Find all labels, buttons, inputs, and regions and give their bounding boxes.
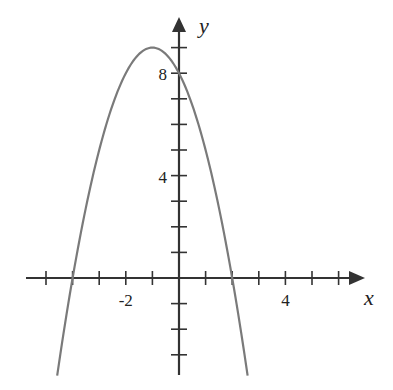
tick-labels: -2448 [119, 65, 290, 310]
x-axis-label: x [363, 285, 374, 310]
parabola-graph: -2448 x y [0, 0, 393, 390]
y-tick-label: 4 [159, 168, 168, 187]
y-tick-label: 8 [159, 65, 168, 84]
axes [26, 17, 365, 375]
x-axis-arrow-icon [349, 271, 365, 285]
parabola-curve [57, 48, 247, 376]
tick-marks [46, 48, 339, 355]
y-axis-arrow-icon [172, 17, 186, 32]
y-axis-label: y [197, 13, 209, 38]
x-tick-label: 4 [281, 291, 290, 310]
x-tick-label: -2 [119, 291, 133, 310]
